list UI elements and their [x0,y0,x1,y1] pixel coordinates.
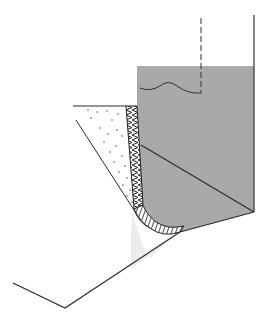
diagram-canvas [0,0,270,327]
gray-block [137,66,254,233]
